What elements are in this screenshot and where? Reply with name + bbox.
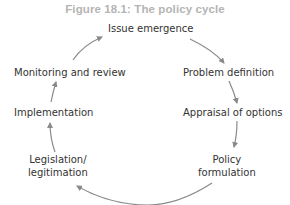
arrow-policy-to-legislation <box>77 183 212 205</box>
arrow-problem-to-appraisal <box>229 81 237 103</box>
cycle-arrows <box>0 0 290 205</box>
arrow-monitoring-to-issue <box>73 37 102 60</box>
arrow-legislation-to-implementation <box>50 123 55 152</box>
arrow-issue-to-problem <box>190 39 224 63</box>
arrow-implementation-to-monitoring <box>51 82 56 102</box>
arrow-appraisal-to-policy <box>234 121 237 147</box>
